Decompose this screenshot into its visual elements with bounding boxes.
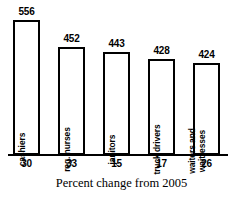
bar-value-label: 452 [58,33,85,44]
axis-tick-label: 17 [148,158,175,169]
bar-value-label: 443 [103,38,130,49]
bar-value-label: 428 [148,45,175,56]
bar-waiters-and-waitresses: waiters andwaitresses [193,63,220,155]
bar-cashiers: cashiers [13,20,40,155]
axis-baseline [8,154,228,156]
bar-truck-drivers: truck drivers [148,59,175,155]
bar-value-label: 556 [13,6,40,17]
axis-tick-label: 30 [13,158,40,169]
bar-value-label: 424 [193,49,220,60]
chart-caption: Percent change from 2005 [0,176,243,191]
plot-area: 556 cashiers 452 reg. nurses 443 janitor… [0,0,243,165]
chart-figure: 556 cashiers 452 reg. nurses 443 janitor… [0,0,243,199]
axis-tick-label: 26 [193,158,220,169]
axis-tick-label: 33 [58,158,85,169]
axis-tick-label: 15 [103,158,130,169]
bar-janitors: janitors [103,52,130,155]
bar-reg-nurses: reg. nurses [58,47,85,155]
